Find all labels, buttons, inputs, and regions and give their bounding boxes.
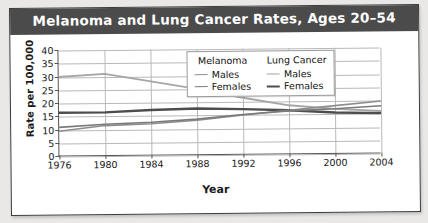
figure-card: Melanoma and Lung Cancer Rates, Ages 20–… <box>9 4 421 216</box>
legend-line-icon <box>195 74 208 75</box>
x-tick-label: 2004 <box>369 156 393 167</box>
legend-item-label: Males <box>284 68 312 79</box>
y-tick-label: 10 <box>42 125 54 136</box>
y-tick-label: 5 <box>48 138 54 149</box>
legend-group: Lung CancerMalesFemales <box>267 54 327 92</box>
legend-item-label: Females <box>284 80 323 91</box>
x-tick-label: 1980 <box>93 159 117 170</box>
legend-line-icon <box>267 73 280 74</box>
legend-item-label: Males <box>212 69 240 80</box>
chart-title: Melanoma and Lung Cancer Rates, Ages 20–… <box>32 9 395 28</box>
legend-line-icon <box>267 85 280 87</box>
y-tick-label: 20 <box>42 98 54 109</box>
chart-legend: MelanomaMalesFemalesLung CancerMalesFema… <box>186 50 334 97</box>
legend-item: Males <box>195 69 251 81</box>
legend-line-icon <box>195 86 208 87</box>
x-tick-label: 1996 <box>277 157 301 168</box>
x-axis-label: Year <box>12 181 420 198</box>
y-tick-label: 15 <box>42 111 54 122</box>
legend-group: MelanomaMalesFemales <box>194 55 251 93</box>
x-tick-label: 1984 <box>139 158 163 169</box>
y-tick-label: 35 <box>41 58 53 69</box>
legend-item: Females <box>195 81 251 93</box>
y-tick-label: 25 <box>42 85 54 96</box>
chart-area: Rate per 100,000 0510152025303540 197619… <box>10 33 420 215</box>
legend-group-heading: Lung Cancer <box>267 54 327 66</box>
y-tick-label: 40 <box>41 45 53 56</box>
x-tick-label: 2000 <box>323 157 347 168</box>
y-tick-label: 30 <box>42 72 54 83</box>
x-tick-label: 1992 <box>231 158 255 169</box>
x-tick-label: 1976 <box>47 159 71 170</box>
y-axis-label: Rate per 100,000 <box>24 51 36 137</box>
title-banner: Melanoma and Lung Cancer Rates, Ages 20–… <box>9 4 420 35</box>
legend-item: Males <box>267 68 327 80</box>
legend-item-label: Females <box>212 81 251 92</box>
legend-item: Females <box>267 80 327 92</box>
figure-root: Melanoma and Lung Cancer Rates, Ages 20–… <box>0 0 428 223</box>
legend-group-heading: Melanoma <box>194 55 250 67</box>
x-tick-label: 1988 <box>185 158 209 169</box>
